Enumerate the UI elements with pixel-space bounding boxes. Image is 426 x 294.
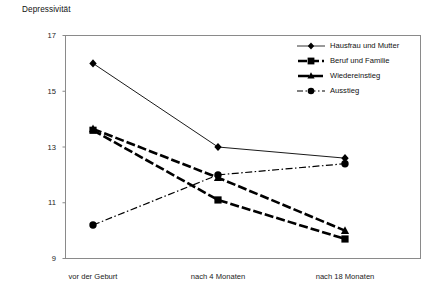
legend-key-circle-icon	[296, 84, 326, 98]
chart-legend: Hausfrau und Mutter Beruf und Familie Wi…	[296, 38, 420, 98]
legend-key-diamond-icon	[296, 39, 326, 53]
legend-label-ausstieg: Ausstieg	[326, 86, 359, 95]
legend-key-triangle-icon	[296, 69, 326, 83]
series-ausstieg	[89, 160, 348, 229]
depressivitaet-line-chart: Depressivität 17 15 13 11 9 vor der Gebu…	[0, 0, 426, 294]
series-wiedereinstieg	[89, 124, 349, 234]
legend-item-beruf-und-familie: Beruf und Familie	[296, 53, 420, 68]
legend-label-hausfrau-und-mutter: Hausfrau und Mutter	[326, 41, 399, 50]
legend-item-hausfrau-und-mutter: Hausfrau und Mutter	[296, 38, 420, 53]
legend-label-wiedereinstieg: Wiedereinstieg	[326, 71, 380, 80]
legend-item-ausstieg: Ausstieg	[296, 83, 420, 98]
legend-item-wiedereinstieg: Wiedereinstieg	[296, 68, 420, 83]
legend-key-square-icon	[296, 54, 326, 68]
legend-label-beruf-und-familie: Beruf und Familie	[326, 56, 390, 65]
